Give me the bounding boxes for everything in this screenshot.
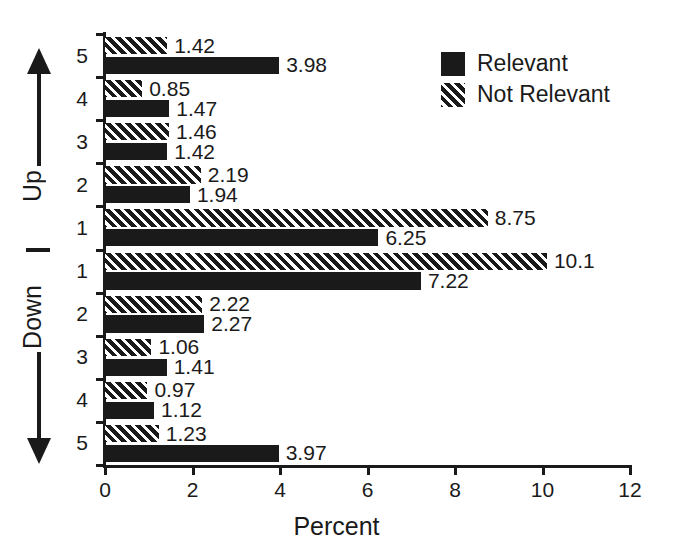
bar: [105, 339, 151, 356]
bar-value-label: 6.25: [385, 228, 426, 248]
legend-swatch-hatched: [441, 83, 465, 107]
y-axis-category-label: 3: [56, 131, 88, 153]
bar: [105, 229, 378, 246]
bar-value-label: 1.42: [174, 36, 215, 56]
bar: [105, 209, 488, 226]
x-axis-tick: [454, 466, 457, 475]
x-axis-tick: [279, 466, 282, 475]
x-axis-tick-label: 2: [163, 478, 223, 502]
bar-value-label: 1.23: [166, 424, 207, 444]
y-axis-category-label: 1: [56, 260, 88, 282]
bar: [105, 382, 147, 399]
y-axis-category-label: 5: [56, 432, 88, 454]
x-axis-tick: [192, 466, 195, 475]
bar: [105, 100, 169, 117]
bar: [105, 37, 167, 54]
bar: [105, 315, 204, 332]
y-axis-tick: [96, 292, 104, 295]
chart-figure: Up Down 0246810125432112345 1.420.851.46…: [0, 0, 673, 560]
bar-value-label: 1.47: [176, 99, 217, 119]
bar: [105, 57, 279, 74]
bar-value-label: 1.42: [174, 142, 215, 162]
y-axis-category-label: 2: [56, 174, 88, 196]
bar-value-label: 2.27: [211, 314, 252, 334]
bar-value-label: 1.46: [176, 122, 217, 142]
y-axis-tick: [96, 421, 104, 424]
bar: [105, 272, 421, 289]
bar-value-label: 10.1: [554, 251, 595, 271]
x-axis-tick-label: 0: [75, 478, 135, 502]
x-axis-tick-label: 8: [425, 478, 485, 502]
y-axis-tick: [96, 464, 104, 467]
up-arrow-icon: [22, 48, 56, 168]
y-axis-tick: [96, 249, 104, 252]
legend-item: Not Relevant: [441, 79, 610, 110]
bar-value-label: 1.12: [161, 400, 202, 420]
bar-value-label: 1.41: [174, 357, 215, 377]
down-arrow-icon: [22, 352, 56, 464]
y-axis-tick: [96, 162, 104, 165]
bar: [105, 402, 154, 419]
legend-swatch-solid: [441, 52, 465, 76]
bar: [105, 166, 201, 183]
bar-value-label: 0.85: [149, 79, 190, 99]
x-axis-tick: [367, 466, 370, 475]
x-axis-title: Percent: [0, 512, 673, 541]
y-axis-tick: [96, 76, 104, 79]
bar: [105, 425, 159, 442]
bar: [105, 253, 547, 270]
x-axis-tick: [542, 466, 545, 475]
bar: [105, 123, 169, 140]
bar-value-label: 3.97: [286, 443, 327, 463]
bar-value-label: 3.98: [286, 55, 327, 75]
y-axis-tick: [96, 205, 104, 208]
bar-value-label: 1.94: [197, 185, 238, 205]
legend-label: Not Relevant: [477, 83, 610, 106]
x-axis-tick-label: 6: [338, 478, 398, 502]
y-axis-category-label: 2: [56, 303, 88, 325]
y-axis-tick: [96, 33, 104, 36]
x-axis-tick: [104, 466, 107, 475]
axis-label-up: Up: [18, 170, 47, 202]
x-axis-tick-label: 4: [250, 478, 310, 502]
bar: [105, 359, 167, 376]
bar: [105, 80, 142, 97]
y-axis-category-label: 3: [56, 346, 88, 368]
bar: [105, 445, 279, 462]
axis-label-down: Down: [18, 285, 47, 349]
bar-value-label: 2.19: [208, 165, 249, 185]
bar-value-label: 8.75: [495, 208, 536, 228]
y-axis-category-label: 4: [56, 389, 88, 411]
y-axis-tick: [96, 335, 104, 338]
legend-label: Relevant: [477, 52, 568, 75]
y-axis-tick: [96, 378, 104, 381]
axis-midpoint-divider: [26, 248, 50, 252]
legend-item: Relevant: [441, 48, 610, 79]
x-axis-tick-label: 12: [600, 478, 660, 502]
y-axis-category-label: 5: [56, 45, 88, 67]
y-axis-category-label: 1: [56, 217, 88, 239]
chart-legend: RelevantNot Relevant: [441, 48, 610, 110]
bar: [105, 296, 202, 313]
bar-value-label: 7.22: [428, 271, 469, 291]
x-axis-tick: [629, 466, 632, 475]
bar: [105, 186, 190, 203]
y-axis-tick: [96, 119, 104, 122]
x-axis-tick-label: 10: [513, 478, 573, 502]
bar: [105, 143, 167, 160]
y-axis-category-label: 4: [56, 88, 88, 110]
